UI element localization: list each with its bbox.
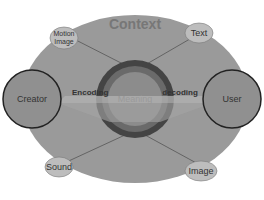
- sound-label: Sound: [45, 163, 73, 172]
- encoding-label: Encoding: [72, 88, 108, 97]
- image-label: Image: [185, 167, 217, 176]
- creator-label: Creator: [6, 95, 58, 104]
- context-title: Context: [105, 17, 165, 31]
- center-label: Meaning: [105, 95, 165, 104]
- text-label: Text: [185, 29, 213, 38]
- decoding-label: decoding: [162, 88, 198, 97]
- motion-image-label: Motion Image: [50, 30, 78, 46]
- user-label: User: [206, 95, 258, 104]
